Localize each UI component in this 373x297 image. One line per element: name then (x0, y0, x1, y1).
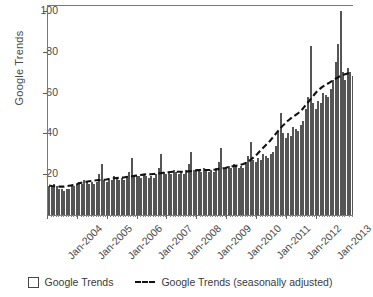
x-minor-tick (292, 215, 293, 217)
x-minor-tick (285, 215, 286, 217)
x-minor-tick (210, 215, 211, 217)
y-axis-title: Google Trends (13, 13, 25, 123)
x-minor-tick (260, 215, 261, 217)
x-minor-tick (175, 215, 176, 217)
x-minor-tick (247, 215, 248, 217)
x-minor-tick (337, 215, 338, 217)
x-minor-tick (195, 215, 196, 217)
x-minor-tick (277, 215, 278, 217)
x-tick-mark (196, 215, 197, 219)
x-minor-tick (240, 215, 241, 217)
chart-legend: Google Trends Google Trends (seasonally … (0, 276, 360, 288)
x-minor-tick (180, 215, 181, 217)
x-minor-tick (334, 215, 335, 217)
x-minor-tick (220, 215, 221, 217)
x-minor-tick (329, 215, 330, 217)
x-minor-tick (128, 215, 129, 217)
x-minor-tick (100, 215, 101, 217)
x-minor-tick (344, 215, 345, 217)
x-minor-tick (312, 215, 313, 217)
x-minor-tick (81, 215, 82, 217)
x-minor-tick (98, 215, 99, 217)
x-minor-tick (123, 215, 124, 217)
x-minor-tick (76, 215, 77, 217)
x-minor-tick (145, 215, 146, 217)
x-minor-tick (155, 215, 156, 217)
x-minor-tick (153, 215, 154, 217)
x-minor-tick (352, 215, 353, 217)
x-minor-tick (133, 215, 134, 217)
x-minor-tick (262, 215, 263, 217)
seasonally-adjusted-line (48, 6, 353, 215)
x-minor-tick (250, 215, 251, 217)
legend-item-line: Google Trends (seasonally adjusted) (135, 276, 332, 288)
x-minor-tick (71, 215, 72, 217)
x-minor-tick (304, 215, 305, 217)
x-minor-tick (349, 215, 350, 217)
x-minor-tick (235, 215, 236, 217)
x-minor-tick (118, 215, 119, 217)
x-minor-tick (267, 215, 268, 217)
x-minor-tick (160, 215, 161, 217)
x-minor-tick (185, 215, 186, 217)
legend-square-icon (28, 277, 39, 288)
x-minor-tick (245, 215, 246, 217)
x-minor-tick (307, 215, 308, 217)
x-minor-tick (66, 215, 67, 217)
x-minor-tick (327, 215, 328, 217)
x-minor-tick (140, 215, 141, 217)
x-minor-tick (96, 215, 97, 217)
x-minor-tick (183, 215, 184, 217)
x-minor-tick (51, 215, 52, 217)
x-minor-tick (105, 215, 106, 217)
x-minor-tick (265, 215, 266, 217)
x-minor-tick (165, 215, 166, 217)
x-minor-tick (163, 215, 164, 217)
x-tick-mark (107, 215, 108, 219)
x-tick-mark (226, 215, 227, 219)
x-tick-mark (256, 215, 257, 219)
x-minor-tick (150, 215, 151, 217)
legend-bars-label: Google Trends (45, 276, 114, 288)
x-minor-tick (212, 215, 213, 217)
x-minor-tick (270, 215, 271, 217)
x-minor-tick (252, 215, 253, 217)
x-minor-tick (230, 215, 231, 217)
x-tick-mark (137, 215, 138, 219)
x-tick-mark (286, 215, 287, 219)
x-minor-tick (63, 215, 64, 217)
x-minor-tick (322, 215, 323, 217)
x-minor-tick (178, 215, 179, 217)
x-tick-mark (47, 215, 48, 219)
x-minor-tick (113, 215, 114, 217)
x-minor-tick (190, 215, 191, 217)
x-minor-tick (222, 215, 223, 217)
x-minor-tick (143, 215, 144, 217)
x-minor-tick (110, 215, 111, 217)
x-minor-tick (342, 215, 343, 217)
x-minor-tick (207, 215, 208, 217)
x-minor-tick (295, 215, 296, 217)
x-minor-tick (68, 215, 69, 217)
x-minor-tick (135, 215, 136, 217)
x-minor-tick (200, 215, 201, 217)
x-minor-tick (302, 215, 303, 217)
x-minor-tick (319, 215, 320, 217)
x-minor-tick (217, 215, 218, 217)
x-minor-tick (272, 215, 273, 217)
legend-dashed-line-icon (135, 281, 155, 283)
x-minor-tick (115, 215, 116, 217)
x-minor-tick (58, 215, 59, 217)
x-minor-tick (158, 215, 159, 217)
x-minor-tick (309, 215, 310, 217)
plot-area (47, 5, 353, 215)
x-minor-tick (282, 215, 283, 217)
x-minor-tick (297, 215, 298, 217)
x-minor-tick (148, 215, 149, 217)
x-minor-tick (130, 215, 131, 217)
x-minor-tick (215, 215, 216, 217)
x-tick-mark (77, 215, 78, 219)
x-minor-tick (202, 215, 203, 217)
x-minor-tick (205, 215, 206, 217)
x-tick-mark (166, 215, 167, 219)
